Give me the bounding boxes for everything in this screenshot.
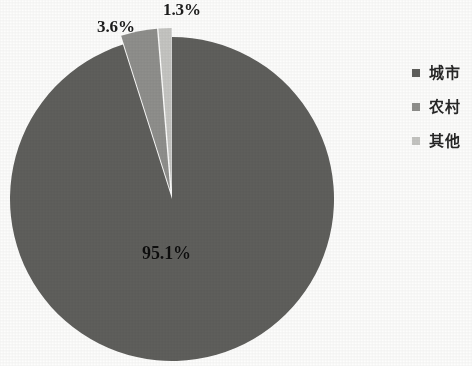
legend-swatch-icon-other — [412, 137, 420, 145]
slice-label-other: 3.6% — [97, 17, 135, 37]
legend-item-other[interactable]: 其他 — [412, 124, 472, 158]
pie-slice-group — [10, 28, 334, 361]
legend-label-city: 城市 — [429, 66, 460, 81]
chart-legend: 城市 农村 其他 — [412, 56, 472, 158]
slice-label-city: 95.1% — [142, 243, 191, 264]
legend-label-rural: 农村 — [429, 100, 460, 115]
legend-swatch-icon-city — [412, 69, 420, 77]
chart-plot-area: 3.6% 1.3% 95.1% — [0, 0, 360, 366]
legend-label-other: 其他 — [429, 134, 460, 149]
pie-chart-svg — [0, 0, 360, 366]
legend-item-rural[interactable]: 农村 — [412, 90, 472, 124]
legend-swatch-icon-rural — [412, 103, 420, 111]
legend-item-city[interactable]: 城市 — [412, 56, 472, 90]
pie-slice-1[interactable] — [10, 37, 334, 361]
pie-chart-figure: 3.6% 1.3% 95.1% 城市 农村 其他 — [0, 0, 472, 366]
slice-label-rural: 1.3% — [163, 0, 201, 20]
